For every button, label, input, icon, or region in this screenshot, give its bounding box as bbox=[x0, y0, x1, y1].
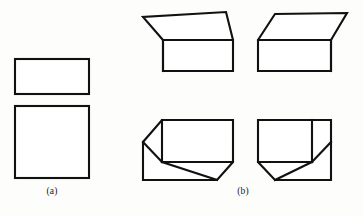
panel-b bbox=[143, 12, 347, 180]
panel-a bbox=[15, 59, 89, 178]
rectangle-top bbox=[15, 59, 89, 94]
box-top-right-outline bbox=[258, 13, 347, 71]
panel-label-b: (b) bbox=[237, 186, 249, 197]
figure-root: (a)(b) bbox=[0, 0, 363, 216]
box-top-left-outline bbox=[143, 12, 233, 71]
box-top-left bbox=[143, 12, 233, 71]
box-bottom-right bbox=[258, 120, 331, 180]
box-bottom-left bbox=[143, 120, 233, 180]
box-top-right bbox=[258, 13, 347, 71]
panel-label-a: (a) bbox=[46, 186, 57, 197]
shape-layer bbox=[15, 12, 347, 180]
figure-canvas: (a)(b) bbox=[0, 0, 363, 216]
label-layer: (a)(b) bbox=[46, 186, 248, 197]
square-bottom bbox=[15, 106, 89, 178]
